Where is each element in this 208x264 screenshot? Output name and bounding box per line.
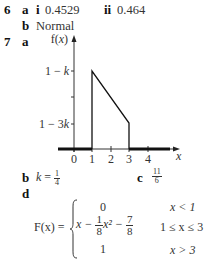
- svg-text:1: 1: [89, 152, 95, 165]
- pdf-graph: f(x) 1 − k 1 − 3k x 0 1 2 3 4: [0, 30, 208, 165]
- curve-trapezoid: [92, 71, 129, 149]
- case-3-expr: 1: [100, 242, 106, 257]
- q6a-i-value: 0.4529: [45, 3, 79, 18]
- x-axis-label: x: [175, 149, 182, 163]
- q7c-fraction: 11 6: [152, 168, 162, 185]
- y-axis-label: f(x): [51, 32, 68, 46]
- question-6-number: 6: [4, 2, 11, 18]
- case-2-cond: 1 ≤ x ≤ 3: [160, 220, 203, 235]
- case-2-expr: x − 1 8 x² − 7 8: [76, 214, 133, 237]
- q6a-label: a: [22, 2, 29, 18]
- q6a-ii-label: ii: [104, 2, 111, 18]
- q6a-i-label: i: [36, 2, 40, 18]
- svg-text:0: 0: [71, 152, 77, 165]
- y-tick-1-minus-k: 1 − k: [45, 64, 70, 78]
- svg-text:3: 3: [126, 152, 132, 165]
- q7b-answer: k = 1 4: [36, 170, 60, 187]
- svg-text:2: 2: [108, 152, 114, 165]
- case-3-cond: x > 3: [170, 243, 195, 258]
- y-axis-arrow-icon: [72, 35, 77, 42]
- q7b-label: b: [22, 170, 29, 186]
- svg-text:4: 4: [145, 152, 151, 165]
- q6a-ii-value: 0.464: [117, 3, 145, 18]
- y-tick-1-minus-3k: 1 − 3k: [39, 117, 70, 131]
- q7c-answer: 11 6: [152, 168, 162, 185]
- q7c-label: c: [137, 170, 143, 186]
- q7b-fraction: 1 4: [54, 170, 60, 187]
- q7d-label: d: [22, 186, 29, 202]
- case-1-cond: x < 1: [170, 200, 195, 215]
- cdf-lhs: F(x) =: [34, 220, 64, 235]
